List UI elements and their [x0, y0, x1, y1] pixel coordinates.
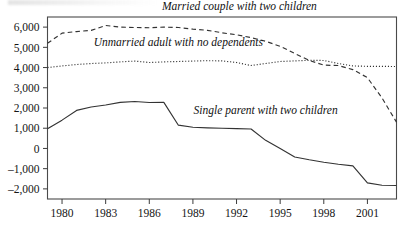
y-axis-tick-label: –2,000 — [7, 183, 40, 196]
line-chart: 6,0005,0004,0003,0002,0001,0000–1,000–2,… — [0, 0, 407, 237]
y-axis-tick-label: 2,000 — [14, 102, 40, 115]
y-axis-tick-label: 1,000 — [14, 122, 40, 135]
y-axis-tick-label: 0 — [34, 143, 40, 155]
y-axis-tick-label: –1,000 — [7, 163, 40, 176]
x-axis-tick-label: 2001 — [356, 207, 379, 219]
chart-container: 6,0005,0004,0003,0002,0001,0000–1,000–2,… — [0, 0, 407, 237]
x-axis-tick-label: 1998 — [312, 207, 335, 219]
y-axis-tick-label: 5,000 — [14, 42, 40, 55]
y-axis-tick-label: 3,000 — [14, 82, 40, 95]
y-axis-tick-label: 6,000 — [14, 21, 40, 34]
x-axis-tick-label: 1986 — [138, 207, 161, 219]
x-axis-tick-label: 1980 — [51, 207, 74, 219]
x-axis-tick-label: 1989 — [181, 207, 204, 219]
series-label: Unmarried adult with no dependents — [94, 36, 264, 49]
x-axis-tick-label: 1983 — [94, 207, 117, 219]
x-axis-tick-label: 1992 — [225, 207, 248, 219]
series-line-dotted — [48, 60, 397, 67]
page-artifact-smudge — [8, 0, 158, 5]
series-label: Single parent with two children — [194, 104, 338, 117]
x-axis-tick-label: 1995 — [269, 207, 292, 219]
series-label: Married couple with two children — [161, 0, 317, 13]
y-axis-tick-label: 4,000 — [14, 62, 40, 75]
